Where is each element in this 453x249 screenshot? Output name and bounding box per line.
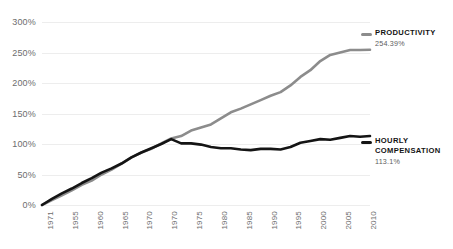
y-tick-0: 0% xyxy=(23,200,36,210)
compensation-value: 113.1% xyxy=(375,157,453,166)
x-tick-1971: 1971 xyxy=(46,211,55,230)
series-line-hourly-compensation xyxy=(42,136,370,205)
y-tick-200: 200% xyxy=(12,78,36,88)
compensation-label-line2: COMPENSATION xyxy=(375,146,453,156)
plot-area: 0%50%100%150%200%250%300% 19711955196019… xyxy=(42,22,370,205)
y-tick-300: 300% xyxy=(12,17,36,27)
x-tick-1970: 1970 xyxy=(145,211,154,230)
annotation-productivity: PRODUCTIVITY 254.39% xyxy=(375,28,453,48)
x-tick-2000: 2000 xyxy=(319,211,328,230)
y-tick-250: 250% xyxy=(12,48,36,58)
gridline-0 xyxy=(42,205,370,206)
x-tick-1965: 1965 xyxy=(121,211,130,230)
compensation-label-line1: HOURLY xyxy=(375,136,453,146)
y-tick-150: 150% xyxy=(12,109,36,119)
x-tick-1990: 1990 xyxy=(270,211,279,230)
x-tick-1980: 1980 xyxy=(220,211,229,230)
x-tick-1985: 1985 xyxy=(245,211,254,230)
productivity-label: PRODUCTIVITY xyxy=(375,28,453,38)
productivity-value: 254.39% xyxy=(375,39,453,48)
x-tick-1970: 1970 xyxy=(170,211,179,230)
compensation-line-marker xyxy=(361,141,372,144)
y-tick-100: 100% xyxy=(12,139,36,149)
series-line-productivity xyxy=(42,50,370,205)
productivity-line-marker xyxy=(361,33,372,36)
series-group xyxy=(42,22,370,205)
x-tick-2010: 2010 xyxy=(369,211,378,230)
x-tick-2005: 2005 xyxy=(344,211,353,230)
x-tick-1975: 1975 xyxy=(195,211,204,230)
y-tick-50: 50% xyxy=(17,170,36,180)
productivity-pay-gap-chart: 0%50%100%150%200%250%300% 19711955196019… xyxy=(0,0,453,249)
x-tick-1995: 1995 xyxy=(294,211,303,230)
x-tick-1960: 1960 xyxy=(96,211,105,230)
x-tick-1955: 1955 xyxy=(71,211,80,230)
annotation-compensation: HOURLY COMPENSATION 113.1% xyxy=(375,136,453,166)
